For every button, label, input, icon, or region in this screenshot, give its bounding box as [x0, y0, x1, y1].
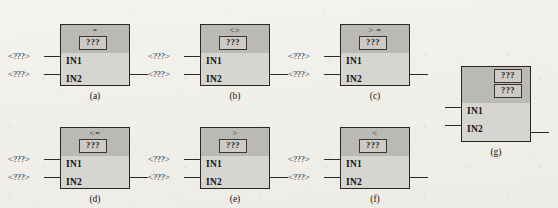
- operator-symbol-d: <=: [61, 129, 129, 138]
- placeholder-box-f[interactable]: ???: [359, 139, 387, 153]
- caption-e: (e): [200, 194, 270, 205]
- input-wire-2-a: [44, 74, 61, 75]
- pin-in2-f: IN2: [346, 177, 362, 187]
- caption-b: (b): [200, 91, 270, 102]
- input-wire-1-d: [44, 159, 61, 160]
- input-label-2-e: <???>: [148, 172, 170, 182]
- function-block-c: <???> <???> > = ??? IN1 IN2 (c): [280, 10, 440, 102]
- input-wire-1-b: [184, 56, 201, 57]
- block-body-c[interactable]: > = ??? IN1 IN2: [340, 24, 410, 86]
- placeholder-box-e[interactable]: ???: [219, 139, 247, 153]
- pin-in2-c: IN2: [346, 74, 362, 84]
- pin-in1-c: IN1: [346, 56, 362, 66]
- input-label-1-b: <???>: [148, 51, 170, 61]
- output-wire-g: [531, 132, 549, 133]
- pin-in1-a: IN1: [66, 56, 82, 66]
- operator-symbol-f: <: [341, 129, 409, 138]
- caption-c: (c): [340, 91, 410, 102]
- input-label-2-d: <???>: [8, 172, 30, 182]
- caption-f: (f): [340, 194, 410, 205]
- placeholder-box-d[interactable]: ???: [79, 139, 107, 153]
- input-label-1-e: <???>: [148, 154, 170, 164]
- input-wire-2-b: [184, 74, 201, 75]
- function-block-a: <???> <???> = ??? IN1 IN2 (a): [0, 10, 160, 102]
- block-header-a: = ???: [61, 25, 129, 53]
- block-header-g: ??? ???: [462, 67, 530, 103]
- pin-in1-g: IN1: [467, 106, 483, 116]
- pin-in2-e: IN2: [206, 177, 222, 187]
- operator-symbol-b: <>: [201, 26, 269, 35]
- caption-d: (d): [60, 194, 130, 205]
- pin-in2-a: IN2: [66, 74, 82, 84]
- pin-in2-d: IN2: [66, 177, 82, 187]
- input-label-1-d: <???>: [8, 154, 30, 164]
- input-label-2-b: <???>: [148, 69, 170, 79]
- input-wire-1-g: [445, 107, 462, 108]
- pin-in2-g: IN2: [467, 124, 483, 134]
- placeholder-box-b[interactable]: ???: [219, 36, 247, 50]
- operator-symbol-a: =: [61, 26, 129, 35]
- input-wire-2-d: [44, 177, 61, 178]
- function-block-f: <???> <???> < ??? IN1 IN2 (f): [280, 113, 440, 205]
- block-body-d[interactable]: <= ??? IN1 IN2: [60, 127, 130, 189]
- output-wire-f: [410, 177, 428, 178]
- input-label-1-c: <???>: [288, 51, 310, 61]
- input-wire-1-a: [44, 56, 61, 57]
- input-wire-2-f: [324, 177, 341, 178]
- block-body-e[interactable]: > ??? IN1 IN2: [200, 127, 270, 189]
- operator-symbol-e: >: [201, 129, 269, 138]
- input-wire-2-g: [445, 125, 462, 126]
- input-label-2-c: <???>: [288, 69, 310, 79]
- input-wire-2-c: [324, 74, 341, 75]
- operator-symbol-c: > =: [341, 26, 409, 35]
- block-header-c: > = ???: [341, 25, 409, 53]
- pin-in1-f: IN1: [346, 159, 362, 169]
- block-body-b[interactable]: <> ??? IN1 IN2: [200, 24, 270, 86]
- pin-in1-e: IN1: [206, 159, 222, 169]
- pin-in1-b: IN1: [206, 56, 222, 66]
- block-body-a[interactable]: = ??? IN1 IN2: [60, 24, 130, 86]
- block-header-f: < ???: [341, 128, 409, 156]
- caption-g: (g): [461, 147, 531, 158]
- pin-in1-d: IN1: [66, 159, 82, 169]
- placeholder-box-c[interactable]: ???: [359, 36, 387, 50]
- block-body-g[interactable]: ??? ??? IN1 IN2: [461, 66, 531, 142]
- function-block-e: <???> <???> > ??? IN1 IN2 (e): [140, 113, 300, 205]
- function-block-g: ??? ??? IN1 IN2 (g): [440, 60, 558, 165]
- function-block-d: <???> <???> <= ??? IN1 IN2 (d): [0, 113, 160, 205]
- figure-canvas: <???> <???> = ??? IN1 IN2 (a) <???> <???…: [0, 0, 558, 208]
- placeholder-box-g-2[interactable]: ???: [494, 84, 522, 98]
- placeholder-box-a[interactable]: ???: [79, 36, 107, 50]
- input-wire-1-e: [184, 159, 201, 160]
- input-label-1-a: <???>: [8, 51, 30, 61]
- function-block-b: <???> <???> <> ??? IN1 IN2 (b): [140, 10, 300, 102]
- block-header-b: <> ???: [201, 25, 269, 53]
- block-header-e: > ???: [201, 128, 269, 156]
- input-wire-2-e: [184, 177, 201, 178]
- output-wire-c: [410, 74, 428, 75]
- input-wire-1-f: [324, 159, 341, 160]
- block-body-f[interactable]: < ??? IN1 IN2: [340, 127, 410, 189]
- input-wire-1-c: [324, 56, 341, 57]
- placeholder-box-g-1[interactable]: ???: [494, 69, 522, 83]
- input-label-1-f: <???>: [288, 154, 310, 164]
- pin-in2-b: IN2: [206, 74, 222, 84]
- input-label-2-a: <???>: [8, 69, 30, 79]
- caption-a: (a): [60, 91, 130, 102]
- block-header-d: <= ???: [61, 128, 129, 156]
- input-label-2-f: <???>: [288, 172, 310, 182]
